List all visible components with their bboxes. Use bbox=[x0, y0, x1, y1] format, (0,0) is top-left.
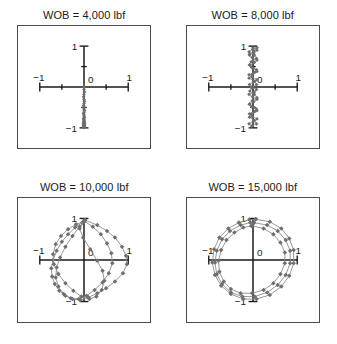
x-axis-max-label: 1 bbox=[127, 72, 132, 83]
plot-frame: −111−10 bbox=[17, 25, 151, 149]
data-point-marker bbox=[95, 223, 100, 228]
data-point-marker bbox=[50, 274, 55, 279]
panel-wob-8000: WOB = 8,000 lbf −111−10 bbox=[169, 0, 337, 172]
data-point-marker bbox=[282, 250, 287, 255]
orbit-plot-figure: WOB = 4,000 lbf −111−10 WOB = 8,000 lbf … bbox=[0, 0, 337, 344]
plot-frame: −111−10 bbox=[17, 197, 151, 323]
data-point-marker bbox=[54, 242, 59, 247]
x-axis-min-label: −1 bbox=[33, 245, 44, 256]
panel-title: WOB = 10,000 lbf bbox=[40, 181, 129, 193]
panel-wob-10000: WOB = 10,000 lbf −111−10 bbox=[0, 172, 169, 344]
data-point-marker bbox=[219, 248, 224, 253]
panel-wob-4000: WOB = 4,000 lbf −111−10 bbox=[0, 0, 169, 172]
x-axis-min-label: −1 bbox=[202, 245, 213, 256]
data-point-marker bbox=[261, 226, 266, 231]
plot-frame: −111−10 bbox=[186, 25, 320, 149]
data-point-marker bbox=[265, 223, 270, 228]
y-axis-min-label: −1 bbox=[235, 123, 246, 134]
data-point-marker bbox=[101, 269, 106, 274]
x-axis-min-label: −1 bbox=[202, 72, 213, 83]
data-point-marker bbox=[54, 275, 59, 280]
x-axis-max-label: 1 bbox=[295, 245, 300, 256]
data-point-marker bbox=[95, 259, 100, 264]
data-point-marker bbox=[63, 244, 68, 249]
panel-title: WOB = 8,000 lbf bbox=[211, 9, 294, 21]
x-axis-max-label: 1 bbox=[295, 72, 300, 83]
data-point-marker bbox=[49, 266, 54, 271]
y-axis-max-label: 1 bbox=[240, 213, 245, 224]
panel-title: WOB = 15,000 lbf bbox=[208, 181, 297, 193]
data-point-marker bbox=[288, 261, 293, 266]
origin-label: 0 bbox=[88, 74, 94, 85]
data-point-marker bbox=[109, 251, 114, 256]
panel-wob-15000: WOB = 15,000 lbf −111−10 bbox=[169, 172, 337, 344]
plot-canvas-8000: −111−10 bbox=[187, 26, 319, 148]
data-point-marker bbox=[58, 255, 63, 260]
plot-canvas-4000: −111−10 bbox=[18, 26, 150, 148]
y-axis-min-label: −1 bbox=[66, 123, 77, 134]
y-axis-max-label: 1 bbox=[240, 41, 245, 52]
x-axis-min-label: −1 bbox=[33, 72, 44, 83]
data-point-marker bbox=[110, 261, 115, 266]
plot-canvas-10000: −111−10 bbox=[18, 198, 150, 322]
panel-title: WOB = 4,000 lbf bbox=[43, 9, 126, 21]
plot-frame: −111−10 bbox=[186, 197, 320, 323]
data-point-marker bbox=[55, 249, 60, 254]
data-point-marker bbox=[267, 220, 272, 225]
data-point-marker bbox=[282, 261, 287, 266]
x-axis-max-label: 1 bbox=[127, 245, 132, 256]
plot-canvas-15000: −111−10 bbox=[187, 198, 319, 322]
origin-label: 0 bbox=[257, 247, 263, 258]
data-point-marker bbox=[288, 249, 293, 254]
y-axis-max-label: 1 bbox=[72, 41, 77, 52]
